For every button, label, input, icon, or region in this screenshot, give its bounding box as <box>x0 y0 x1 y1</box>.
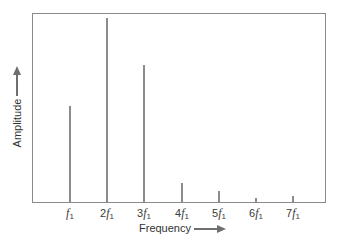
x-tick-label: 2f1 <box>100 206 114 221</box>
x-tick-label: 3f1 <box>137 206 151 221</box>
bar-5f1 <box>218 191 220 202</box>
x-tick-label: 7f1 <box>286 206 300 221</box>
bar-6f1 <box>255 198 257 202</box>
bar-2f1 <box>106 18 108 202</box>
x-tick-label: f1 <box>66 206 74 221</box>
plot-area <box>32 13 326 203</box>
x-axis-label: Frequency <box>139 222 191 234</box>
bar-4f1 <box>181 183 183 202</box>
bar-7f1 <box>292 196 294 202</box>
y-axis-label: Amplitude <box>11 99 23 148</box>
bar-f1 <box>69 106 71 202</box>
y-axis-arrow-icon <box>16 74 18 96</box>
bar-3f1 <box>143 65 145 202</box>
x-tick-label: 6f1 <box>249 206 263 221</box>
x-axis-arrow-icon <box>194 228 218 230</box>
x-tick-label: 4f1 <box>175 206 189 221</box>
x-tick-label: 5f1 <box>212 206 226 221</box>
